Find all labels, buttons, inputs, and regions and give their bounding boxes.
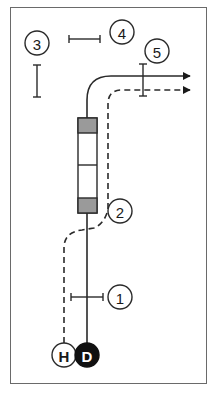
start-point-h-label: H xyxy=(59,348,70,365)
marker-2-label: 2 xyxy=(116,204,124,221)
train-block xyxy=(78,118,97,213)
marker-5: 5 xyxy=(145,39,169,63)
marker-1: 1 xyxy=(108,285,132,309)
marker-3: 3 xyxy=(25,31,49,55)
marker-2: 2 xyxy=(108,199,132,223)
block-segment-top xyxy=(78,118,97,133)
measure-bar-4 xyxy=(69,35,100,43)
block-segment-bottom xyxy=(78,198,97,213)
solid-route xyxy=(87,76,190,343)
start-point-h: H xyxy=(52,343,76,367)
marker-4: 4 xyxy=(110,20,134,44)
start-point-d-label: D xyxy=(82,348,93,365)
start-point-d: D xyxy=(75,343,99,367)
measure-bar-5 xyxy=(139,64,147,96)
route-diagram: 3 4 5 2 1 H D xyxy=(0,0,215,395)
marker-3-label: 3 xyxy=(33,36,41,53)
marker-5-label: 5 xyxy=(153,44,161,61)
measure-bar-3 xyxy=(33,65,41,97)
marker-1-label: 1 xyxy=(116,290,124,307)
marker-4-label: 4 xyxy=(118,25,126,42)
